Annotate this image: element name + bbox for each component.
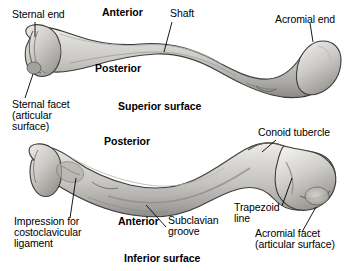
label-acromial-end: Acromial end (275, 14, 335, 26)
label-shaft: Shaft (170, 8, 194, 20)
caption-inferior-surface: Inferior surface (124, 253, 200, 265)
leader-acromial-end (310, 23, 313, 42)
acromial-facet-surface (305, 187, 329, 205)
label-impression-line3: ligament (14, 238, 53, 250)
superior-acromial-end (296, 41, 341, 95)
label-trapezoid-line2: line (234, 213, 250, 225)
inferior-clavicle-bone (29, 143, 336, 217)
label-subclavian-line2: groove (168, 226, 200, 238)
clavicle-anatomy-figure: Sternal end Anterior Shaft Acromial end … (0, 0, 350, 271)
label-sternal-end: Sternal end (12, 9, 65, 21)
label-posterior-inferior: Posterior (104, 136, 150, 148)
label-conoid-tubercle: Conoid tubercle (258, 127, 330, 139)
caption-superior-surface: Superior surface (118, 101, 201, 113)
sternal-facet-surface (27, 62, 41, 74)
superior-clavicle-bone (25, 25, 341, 98)
label-anterior-inferior: Anterior (118, 216, 159, 228)
leader-sternal-facet (25, 74, 33, 98)
label-anterior-superior: Anterior (102, 7, 143, 19)
label-acromial-facet-line2: (articular surface) (255, 239, 335, 251)
label-sternal-facet-line3: surface) (12, 121, 49, 133)
label-posterior-superior: Posterior (95, 63, 141, 75)
